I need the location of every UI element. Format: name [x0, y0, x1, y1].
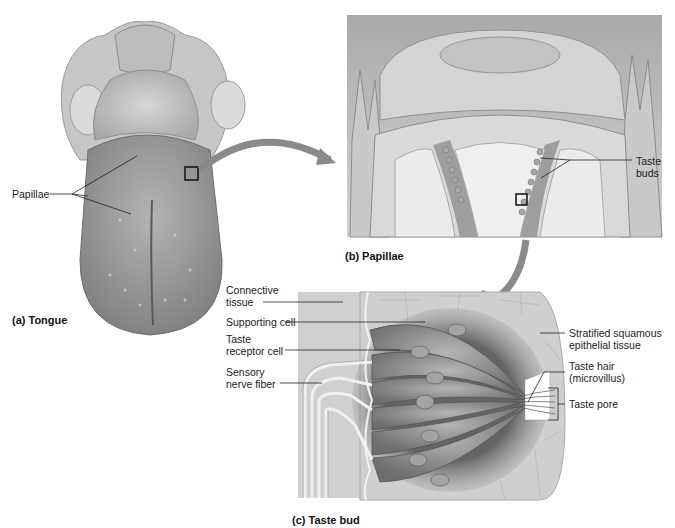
papillae-illustration — [347, 15, 662, 237]
taste-hair-line2: (microvillus) — [569, 372, 625, 384]
sensory-line1: Sensory — [226, 366, 276, 378]
label-taste-hair: Taste hair (microvillus) — [569, 360, 625, 384]
taste-buds-line1: Taste — [636, 155, 661, 167]
label-connective-tissue: Connective tissue — [226, 284, 279, 308]
caption-taste-bud: (c) Taste bud — [292, 514, 360, 526]
connective-line1: Connective — [226, 284, 279, 296]
caption-tongue: (a) Tongue — [12, 314, 67, 326]
taste-hair-line1: Taste hair — [569, 360, 625, 372]
label-stratified-squamous: Stratified squamous epithelial tissue — [569, 327, 662, 351]
sensory-line2: nerve fiber — [226, 378, 276, 390]
arrow-tongue-to-papillae — [200, 142, 330, 170]
receptor-line2: receptor cell — [226, 345, 283, 357]
caption-papillae: (b) Papillae — [345, 250, 404, 262]
stratified-line1: Stratified squamous — [569, 327, 662, 339]
label-supporting-cell: Supporting cell — [226, 316, 295, 328]
label-sensory-nerve-fiber: Sensory nerve fiber — [226, 366, 276, 390]
label-taste-receptor-cell: Taste receptor cell — [226, 333, 283, 357]
label-taste-buds: Taste buds — [636, 155, 661, 179]
taste-buds-line2: buds — [636, 167, 661, 179]
taste-anatomy-illustration — [0, 0, 675, 528]
taste-bud-illustration — [298, 292, 565, 500]
label-taste-pore: Taste pore — [569, 398, 618, 410]
label-papillae: Papillae — [12, 188, 49, 200]
tongue-illustration — [61, 21, 245, 335]
stratified-line2: epithelial tissue — [569, 339, 662, 351]
receptor-line1: Taste — [226, 333, 283, 345]
connective-line2: tissue — [226, 296, 279, 308]
